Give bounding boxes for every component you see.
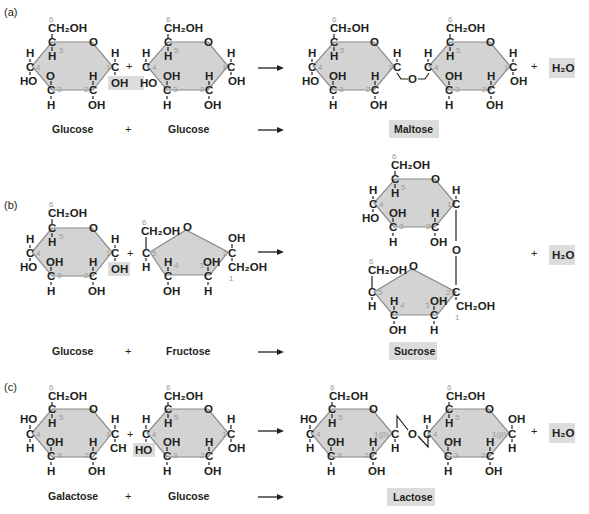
panel-c: (c) 6 CH₂OH C H 5 O HO C 4 H OH C 3 H H xyxy=(4,381,575,506)
reactant-label: Glucose xyxy=(52,345,94,357)
svg-text:C: C xyxy=(509,61,517,73)
svg-text:H: H xyxy=(328,417,336,429)
plus-sign: + xyxy=(531,425,537,437)
svg-text:HO: HO xyxy=(362,212,379,224)
svg-text:H: H xyxy=(391,187,399,199)
fructose-molecule-b: 6 CH₂OH O C 5 H H C 4 OH OH 3 C H OH 2 C… xyxy=(141,218,267,297)
svg-text:HO: HO xyxy=(140,77,157,89)
svg-text:5: 5 xyxy=(174,413,179,422)
svg-text:OH: OH xyxy=(327,436,344,448)
glycosidic-oxygen: O xyxy=(408,73,417,85)
svg-text:1: 1 xyxy=(229,274,234,283)
svg-text:H: H xyxy=(48,50,56,62)
svg-text:2: 2 xyxy=(446,288,451,297)
svg-text:C: C xyxy=(205,84,213,96)
svg-text:H: H xyxy=(308,47,316,59)
svg-text:OH: OH xyxy=(163,70,180,82)
svg-text:C: C xyxy=(431,221,439,233)
panel-label-a: (a) xyxy=(4,6,17,18)
svg-text:HO: HO xyxy=(20,75,37,87)
svg-text:+: + xyxy=(125,345,131,357)
svg-text:4: 4 xyxy=(316,430,321,439)
svg-text:C: C xyxy=(369,198,377,210)
svg-text:H: H xyxy=(142,261,150,273)
svg-text:C: C xyxy=(48,222,56,234)
glucose-molecule-c: 6 CH₂OH C H 5 O H C 4 HO OH C 3 H H 2 C xyxy=(133,383,245,477)
glucose-molecule-a1: 6 CH₂OH C H 5 O H C 4 HO O C 3 H H 2 xyxy=(20,15,157,111)
svg-text:OH: OH xyxy=(368,465,385,477)
svg-text:C: C xyxy=(486,450,494,462)
svg-text:O: O xyxy=(46,70,55,82)
svg-text:OH: OH xyxy=(111,263,128,275)
svg-text:4: 4 xyxy=(400,301,405,310)
svg-text:OH: OH xyxy=(204,99,221,111)
reactant-label: Glucose xyxy=(168,490,210,502)
svg-text:OH: OH xyxy=(508,413,525,425)
svg-text:4: 4 xyxy=(318,63,323,72)
svg-text:C: C xyxy=(391,173,399,185)
plus-sign: + xyxy=(126,60,132,72)
svg-text:H: H xyxy=(424,47,432,59)
svg-text:C: C xyxy=(371,84,379,96)
svg-text:H: H xyxy=(391,442,399,454)
svg-text:5: 5 xyxy=(378,288,383,297)
svg-text:H: H xyxy=(111,413,119,425)
svg-text:OH: OH xyxy=(430,295,447,307)
svg-text:H: H xyxy=(47,465,55,477)
svg-text:H: H xyxy=(327,465,335,477)
svg-text:HO: HO xyxy=(20,413,37,425)
svg-text:H: H xyxy=(164,50,172,62)
svg-text:H: H xyxy=(445,99,453,111)
svg-text:3: 3 xyxy=(173,85,178,94)
svg-text:C: C xyxy=(369,450,377,462)
svg-text:3: 3 xyxy=(454,451,459,460)
sucrose-molecule: 6 CH₂OH C H 5 O H C 4 HO OH C 3 H H 2 C … xyxy=(362,152,495,336)
svg-text:H: H xyxy=(111,233,119,245)
svg-text:O: O xyxy=(204,403,213,415)
panel-b: (b) 6 CH₂OH C H 5 O H C 4 HO OH C 3 H H xyxy=(4,152,575,360)
svg-text:O: O xyxy=(485,403,494,415)
svg-text:5: 5 xyxy=(455,413,460,422)
svg-text:OH: OH xyxy=(430,236,447,248)
svg-text:C: C xyxy=(327,450,335,462)
svg-text:H: H xyxy=(48,236,56,248)
glycosidic-oxygen: O xyxy=(408,428,417,440)
svg-text:H: H xyxy=(227,413,235,425)
svg-text:5: 5 xyxy=(401,183,406,192)
svg-text:H: H xyxy=(444,465,452,477)
svg-text:3: 3 xyxy=(57,271,62,280)
maltose-molecule: 6 CH₂OH C H 5 O H C 4 HO OH C 3 H H 2 C … xyxy=(302,15,527,111)
svg-text:C: C xyxy=(163,84,171,96)
svg-text:5: 5 xyxy=(59,413,64,422)
beta-linkage-label: 1(β) xyxy=(374,430,389,439)
svg-text:C: C xyxy=(452,198,460,210)
svg-text:3: 3 xyxy=(337,451,342,460)
svg-text:3: 3 xyxy=(173,451,178,460)
svg-text:OH: OH xyxy=(389,207,406,219)
svg-text:HO: HO xyxy=(135,444,152,456)
svg-text:C: C xyxy=(389,221,397,233)
svg-text:+: + xyxy=(125,490,131,502)
svg-text:H: H xyxy=(306,442,314,454)
svg-text:4: 4 xyxy=(433,430,438,439)
svg-text:C: C xyxy=(308,61,316,73)
svg-text:C: C xyxy=(508,428,516,440)
svg-text:H: H xyxy=(330,50,338,62)
svg-text:OH: OH xyxy=(163,285,180,297)
svg-text:H: H xyxy=(26,47,34,59)
svg-text:H: H xyxy=(369,184,377,196)
svg-text:C: C xyxy=(89,450,97,462)
svg-text:CH₂OH: CH₂OH xyxy=(456,300,495,312)
svg-text:OH: OH xyxy=(228,442,245,454)
svg-text:5: 5 xyxy=(59,232,64,241)
lactose-molecule: 6 CH₂OH C H 5 O HO C 4 H OH C 3 H H 2 C … xyxy=(300,383,525,477)
svg-text:CH₂OH: CH₂OH xyxy=(164,390,203,402)
svg-text:O: O xyxy=(486,36,495,48)
svg-text:5: 5 xyxy=(174,46,179,55)
svg-text:5: 5 xyxy=(340,46,345,55)
glycosidic-oxygen: O xyxy=(452,244,461,256)
svg-text:4: 4 xyxy=(379,200,384,209)
svg-text:C: C xyxy=(89,84,97,96)
svg-text:C: C xyxy=(111,247,119,259)
svg-text:C: C xyxy=(445,403,453,415)
